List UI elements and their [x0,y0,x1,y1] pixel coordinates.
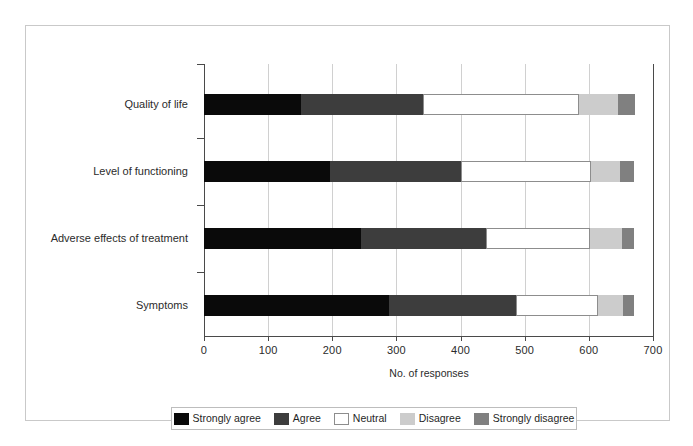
bar-segment [361,228,485,249]
legend-item[interactable]: Agree [274,413,321,425]
y-axis-top-cap [197,64,204,65]
legend-swatch-icon [334,413,349,425]
x-axis-tick-label: 700 [644,344,663,356]
legend-label: Strongly agree [193,413,261,424]
x-axis-tick-100 [268,336,269,341]
x-axis-tick-500 [525,336,526,341]
bar-segment [301,94,422,115]
x-axis-tick-600 [589,336,590,341]
x-axis-tick-label: 200 [323,344,342,356]
bar-segment [591,161,621,182]
x-axis-tick-400 [461,336,462,341]
bar-segment [204,94,301,115]
bar-row [26,161,671,182]
bar-segment [516,295,597,316]
legend-label: Disagree [419,413,461,424]
bar-segment [623,295,635,316]
x-axis-tick-700 [653,336,654,341]
bar-segment [622,228,634,249]
legend-label: Strongly disagree [493,413,575,424]
legend-item[interactable]: Strongly agree [174,413,261,425]
x-axis-tick-label: 400 [451,344,470,356]
bar-segment [204,161,330,182]
bar-segment [579,94,618,115]
bar-row [26,228,671,249]
y-axis-tick [197,272,204,273]
legend-swatch-icon [474,413,489,425]
bar-segment [590,228,621,249]
legend-swatch-icon [274,413,289,425]
x-axis-tick-label: 500 [515,344,534,356]
chart-legend: Strongly agreeAgreeNeutralDisagreeStrong… [171,407,577,430]
legend-swatch-icon [400,413,415,425]
legend-label: Agree [293,413,321,424]
bar-segment [423,94,579,115]
legend-swatch-icon [174,413,189,425]
bar-segment [389,295,516,316]
figure-root: Quality of lifeLevel of functioningAdver… [0,0,693,446]
x-axis-tick-200 [332,336,333,341]
x-axis-tick-label: 0 [201,344,207,356]
x-axis-title: No. of responses [204,367,654,379]
bar-segment [620,161,633,182]
x-axis-tick-300 [396,336,397,341]
legend-item[interactable]: Disagree [400,413,461,425]
x-axis-tick-label: 600 [579,344,598,356]
bar-segment [598,295,623,316]
x-axis-tick-label: 300 [387,344,406,356]
bar-row [26,295,671,316]
bar-segment [330,161,461,182]
x-axis-tick-0 [204,336,205,341]
bar-segment [204,228,361,249]
legend-label: Neutral [353,413,387,424]
legend-item[interactable]: Neutral [334,413,387,425]
x-axis-tick-label: 100 [259,344,278,356]
bar-segment [204,295,389,316]
y-axis-tick [197,138,204,139]
bar-row [26,94,671,115]
y-axis-tick [197,205,204,206]
figure-frame: Quality of lifeLevel of functioningAdver… [25,25,670,421]
x-axis-line [204,336,654,337]
bar-segment [618,94,635,115]
bar-segment [461,161,591,182]
legend-item[interactable]: Strongly disagree [474,413,575,425]
bar-segment [486,228,591,249]
